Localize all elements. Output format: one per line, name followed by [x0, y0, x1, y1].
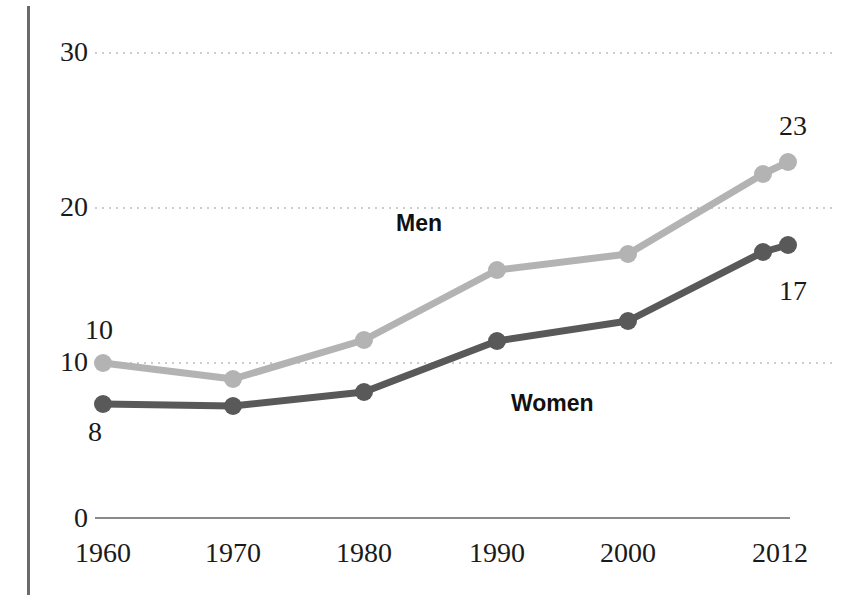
series-men: [94, 153, 797, 388]
x-axis-tick-1990: 1990: [437, 539, 557, 567]
series-women-point-2012: [779, 236, 797, 254]
line-chart-svg: [0, 0, 848, 601]
series-label-men: Men: [396, 212, 442, 235]
series-women-line: [103, 245, 788, 406]
chart-plot-area: 30 20 10 0 1960 1970 1980 1990 2000 2012…: [0, 0, 848, 601]
series-men-point-2012: [779, 153, 797, 171]
x-axis-tick-1980: 1980: [304, 539, 424, 567]
series-men-point-1980: [355, 331, 373, 349]
series-men-line: [103, 162, 788, 379]
series-men-point-1990: [488, 261, 506, 279]
x-axis-tick-2000: 2000: [568, 539, 688, 567]
series-women-point-1970: [224, 397, 242, 415]
value-label-women-2012: 17: [779, 277, 807, 305]
y-axis-tick-10: 10: [30, 348, 88, 376]
series-men-point-2010: [754, 165, 772, 183]
series-men-point-1960: [94, 354, 112, 372]
value-label-men-2012: 23: [779, 112, 807, 140]
series-men-point-2000: [619, 245, 637, 263]
series-women-point-1960: [94, 395, 112, 413]
series-women: [94, 236, 797, 415]
value-label-women-1960: 8: [88, 418, 102, 446]
value-label-men-1960: 10: [85, 316, 113, 344]
series-women-point-2010: [754, 243, 772, 261]
x-axis-tick-1960: 1960: [43, 539, 163, 567]
series-label-women: Women: [511, 392, 594, 415]
series-women-point-2000: [619, 312, 637, 330]
x-axis-tick-1970: 1970: [173, 539, 293, 567]
series-women-point-1990: [488, 332, 506, 350]
gridlines: [95, 53, 836, 363]
y-axis-tick-20: 20: [30, 193, 88, 221]
y-axis-tick-0: 0: [30, 504, 88, 532]
x-axis-tick-2012: 2012: [720, 539, 840, 567]
series-men-point-1970: [224, 370, 242, 388]
chart-screenshot: 30 20 10 0 1960 1970 1980 1990 2000 2012…: [0, 0, 848, 601]
series-women-point-1980: [355, 383, 373, 401]
y-axis-tick-30: 30: [30, 38, 88, 66]
